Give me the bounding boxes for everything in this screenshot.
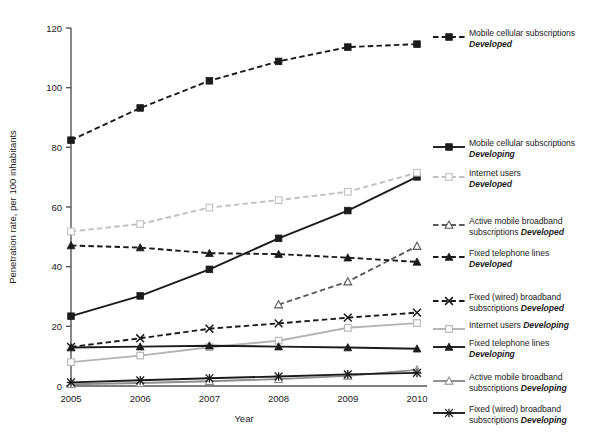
series-1 (68, 174, 421, 320)
legend-label: Fixed (wired) broadbandsubscriptions Dev… (469, 404, 567, 425)
series-0 (68, 41, 421, 144)
svg-text:2005: 2005 (60, 393, 81, 404)
legend-item-2[interactable]: Internet usersDeveloped (432, 168, 609, 189)
legend-label: Mobile cellular subscriptionsDeveloping (469, 138, 575, 159)
legend-item-9[interactable]: Fixed (wired) broadbandsubscriptions Dev… (432, 404, 609, 425)
legend-item-4[interactable]: Fixed telephone linesDeveloped (432, 248, 609, 269)
legend-item-7[interactable]: Fixed telephone linesDeveloping (432, 338, 609, 359)
legend-swatch-icon (432, 217, 466, 229)
svg-text:Year: Year (234, 413, 253, 424)
svg-text:2007: 2007 (199, 393, 220, 404)
legend-item-8[interactable]: Active mobile broadbandsubscriptions Dev… (432, 372, 609, 393)
legend-item-6[interactable]: Internet users Developing (432, 320, 609, 333)
legend-item-5[interactable]: Fixed (wired) broadbandsubscriptions Dev… (432, 292, 609, 313)
svg-text:100: 100 (46, 82, 62, 93)
legend-item-3[interactable]: Active mobile broadbandsubscriptions Dev… (432, 216, 609, 237)
svg-text:2010: 2010 (406, 393, 427, 404)
chart-page: 020406080100120200520062007200820092010Y… (0, 0, 609, 448)
legend-label: Active mobile broadbandsubscriptions Dev… (469, 216, 564, 237)
legend-item-0[interactable]: Mobile cellular subscriptionsDeveloped (432, 28, 609, 49)
svg-text:0: 0 (57, 381, 62, 392)
svg-text:2008: 2008 (268, 393, 289, 404)
svg-text:20: 20 (51, 321, 62, 332)
svg-text:2006: 2006 (130, 393, 151, 404)
line-chart-svg: 020406080100120200520062007200820092010Y… (0, 0, 430, 448)
legend-label: Active mobile broadbandsubscriptions Dev… (469, 372, 567, 393)
svg-text:2009: 2009 (337, 393, 358, 404)
legend-item-1[interactable]: Mobile cellular subscriptionsDeveloping (432, 138, 609, 159)
legend-label: Mobile cellular subscriptionsDeveloped (469, 28, 575, 49)
legend-swatch-icon (432, 339, 466, 351)
legend-label: Fixed telephone linesDeveloped (469, 248, 549, 269)
legend-swatch-icon (432, 29, 466, 41)
legend-swatch-icon (432, 293, 466, 305)
legend-swatch-icon (432, 139, 466, 151)
legend-swatch-icon (432, 321, 466, 333)
legend-label: Internet usersDeveloped (469, 168, 521, 189)
svg-text:80: 80 (51, 142, 62, 153)
chart-plot-area: 020406080100120200520062007200820092010Y… (0, 0, 430, 448)
legend-label: Fixed (wired) broadbandsubscriptions Dev… (469, 292, 564, 313)
series-3 (275, 242, 421, 308)
legend-swatch-icon (432, 405, 466, 417)
svg-text:40: 40 (51, 261, 62, 272)
chart-legend: Mobile cellular subscriptionsDevelopedMo… (432, 0, 609, 448)
svg-text:60: 60 (51, 202, 62, 213)
legend-label: Internet users Developing (469, 320, 569, 331)
legend-swatch-icon (432, 169, 466, 181)
legend-swatch-icon (432, 249, 466, 261)
svg-text:120: 120 (46, 23, 62, 34)
legend-swatch-icon (432, 373, 466, 385)
svg-text:Penetration rate, per 100 inha: Penetration rate, per 100 inhabitants (7, 130, 18, 284)
legend-label: Fixed telephone linesDeveloping (469, 338, 549, 359)
